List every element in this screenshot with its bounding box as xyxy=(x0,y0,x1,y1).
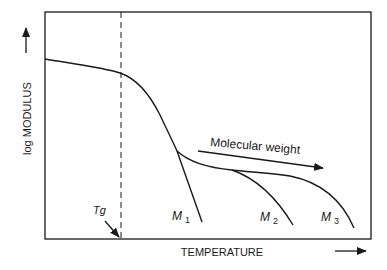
modulus-curve-main xyxy=(45,59,177,151)
x-axis-label: TEMPERATURE xyxy=(181,246,263,258)
label-m1: M 1 xyxy=(172,209,190,225)
svg-text:M: M xyxy=(260,210,270,224)
svg-text:M: M xyxy=(321,210,331,224)
y-axis-label: log MODULUS xyxy=(21,82,33,155)
svg-text:M: M xyxy=(172,209,182,223)
svg-text:3: 3 xyxy=(334,216,339,226)
tg-label: Tg xyxy=(93,204,107,216)
svg-text:1: 1 xyxy=(185,215,190,225)
modulus-temperature-diagram: Molecular weight M 1 M 2 M 3 Tg log MODU… xyxy=(0,0,387,270)
tg-arrow-icon xyxy=(105,221,119,237)
label-m2: M 2 xyxy=(260,210,278,226)
molecular-weight-label: Molecular weight xyxy=(210,135,302,157)
molecular-weight-arrow-icon xyxy=(198,151,323,168)
svg-text:2: 2 xyxy=(273,216,278,226)
label-m3: M 3 xyxy=(321,210,339,226)
